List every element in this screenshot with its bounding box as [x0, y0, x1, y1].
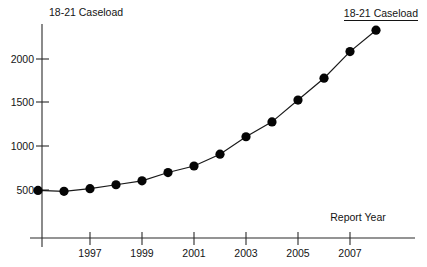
data-point: [241, 132, 250, 141]
data-point: [189, 161, 198, 170]
data-point: [293, 95, 302, 104]
data-point: [215, 150, 224, 159]
series-18-21-caseload: [33, 26, 380, 196]
data-point: [59, 187, 68, 196]
series-line: [38, 30, 376, 191]
y-tick-label-2000: 2000: [11, 53, 35, 65]
data-point: [319, 74, 328, 83]
data-point: [33, 186, 42, 195]
line-chart: 500 1000 1500 2000 1997 1999 2001 2003 2…: [0, 0, 427, 267]
y-tick-label-1000: 1000: [11, 140, 35, 152]
x-tick-label-1997: 1997: [78, 247, 102, 259]
data-point: [345, 47, 354, 56]
data-point: [371, 26, 380, 35]
x-tick-label-2001: 2001: [182, 247, 206, 259]
x-tick-label-2005: 2005: [286, 247, 310, 259]
x-tick-label-2007: 2007: [338, 247, 362, 259]
data-point: [137, 176, 146, 185]
data-point: [85, 184, 94, 193]
y-tick-label-500: 500: [16, 184, 34, 196]
data-point: [267, 117, 276, 126]
x-tick-label-1999: 1999: [130, 247, 154, 259]
legend-label: 18-21 Caseload: [344, 7, 418, 19]
chart-screenshot: 500 1000 1500 2000 1997 1999 2001 2003 2…: [0, 0, 427, 267]
series-markers: [33, 26, 380, 196]
data-point: [111, 180, 120, 189]
x-tick-label-2003: 2003: [234, 247, 258, 259]
data-point: [163, 168, 172, 177]
x-axis-title: Report Year: [330, 211, 386, 223]
y-tick-label-1500: 1500: [11, 96, 35, 108]
y-axis-title: 18-21 Caseload: [49, 6, 123, 18]
